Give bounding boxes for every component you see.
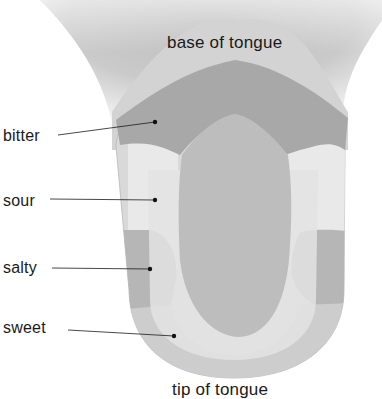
tip-of-tongue-label: tip of tongue <box>172 381 268 398</box>
sweet-label: sweet <box>3 320 46 336</box>
base-of-tongue-label: base of tongue <box>167 34 282 51</box>
tongue-diagram <box>0 0 382 399</box>
center-region <box>179 114 292 337</box>
salty-label: salty <box>3 260 37 276</box>
bitter-label: bitter <box>3 128 40 144</box>
sour-label: sour <box>3 193 35 209</box>
